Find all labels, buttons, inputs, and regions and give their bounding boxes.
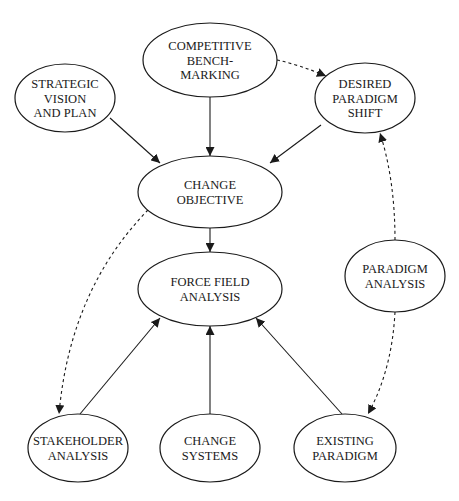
change-process-diagram: COMPETITIVEBENCH-MARKINGSTRATEGICVISIONA…	[0, 0, 459, 501]
node-label-line: EXISTING	[316, 434, 374, 448]
node-competitive-benchmarking: COMPETITIVEBENCH-MARKING	[143, 23, 277, 97]
edge-desired-paradigm-shift-to-change-objective	[270, 125, 321, 163]
node-label-line: STRATEGIC	[31, 77, 98, 91]
node-paradigm-analysis: PARADIGMANALYSIS	[345, 240, 445, 312]
edge-change-objective-to-stakeholder-analysis	[59, 210, 148, 414]
node-stakeholder-analysis: STAKEHOLDERANALYSIS	[28, 414, 128, 482]
node-label-line: COMPETITIVE	[168, 39, 252, 53]
node-label-line: BENCH-	[187, 54, 234, 68]
node-label-line: ANALYSIS	[48, 449, 109, 463]
node-label-line: ANALYSIS	[180, 290, 241, 304]
node-change-systems: CHANGESYSTEMS	[160, 414, 260, 482]
node-label-line: VISION	[44, 92, 86, 106]
node-label-line: PARADIGM	[362, 262, 428, 276]
nodes: COMPETITIVEBENCH-MARKINGSTRATEGICVISIONA…	[15, 23, 445, 482]
node-existing-paradigm: EXISTINGPARADIGM	[294, 414, 396, 482]
node-label-line: AND PLAN	[34, 106, 97, 120]
node-label-line: MARKING	[180, 68, 240, 82]
edge-paradigm-analysis-to-desired-paradigm-shift	[380, 133, 395, 240]
edge-paradigm-analysis-to-existing-paradigm	[368, 312, 395, 414]
node-label-line: CHANGE	[184, 434, 236, 448]
node-force-field-analysis: FORCE FIELDANALYSIS	[138, 252, 282, 326]
edge-competitive-benchmarking-to-desired-paradigm-shift	[277, 60, 326, 76]
node-strategic-vision: STRATEGICVISIONAND PLAN	[15, 64, 115, 132]
node-desired-paradigm-shift: DESIREDPARADIGMSHIFT	[315, 63, 415, 133]
node-label-line: OBJECTIVE	[177, 193, 244, 207]
edge-stakeholder-analysis-to-force-field-analysis	[80, 318, 160, 414]
node-label-line: PARADIGM	[312, 449, 378, 463]
node-change-objective: CHANGEOBJECTIVE	[138, 156, 282, 228]
node-label-line: STAKEHOLDER	[33, 434, 124, 448]
diagram-canvas: COMPETITIVEBENCH-MARKINGSTRATEGICVISIONA…	[0, 0, 459, 501]
node-label-line: CHANGE	[184, 178, 236, 192]
edge-strategic-vision-to-change-objective	[110, 118, 160, 163]
node-label-line: SHIFT	[348, 106, 383, 120]
node-label-line: PARADIGM	[332, 92, 398, 106]
edge-existing-paradigm-to-force-field-analysis	[256, 318, 342, 414]
node-label-line: DESIRED	[339, 77, 392, 91]
node-label-line: ANALYSIS	[365, 277, 426, 291]
node-label-line: FORCE FIELD	[171, 275, 250, 289]
node-label-line: SYSTEMS	[182, 449, 238, 463]
